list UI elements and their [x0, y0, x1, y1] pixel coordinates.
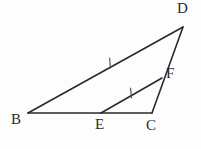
- tick-on-EF: [127, 88, 135, 98]
- vertex-label-B: B: [11, 112, 21, 127]
- vertex-label-C: C: [146, 118, 156, 133]
- segments-group: [28, 27, 183, 113]
- geometry-figure: B E C D F: [0, 0, 201, 149]
- segment-BD: [28, 27, 183, 113]
- vertex-label-D: D: [177, 1, 188, 16]
- tick-marks-group: [106, 58, 135, 98]
- vertex-label-E: E: [95, 117, 104, 132]
- vertex-label-F: F: [166, 66, 174, 81]
